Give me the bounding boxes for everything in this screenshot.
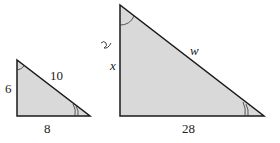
small-vertical-label: 6 <box>5 81 12 96</box>
large-triangle <box>120 5 264 116</box>
large-vertical-label: x <box>109 58 116 73</box>
large-base-label: 28 <box>182 121 195 136</box>
large-hypotenuse-label: w <box>190 43 199 58</box>
similar-triangles-diagram: 6 10 8 x w 28 <box>0 0 280 143</box>
handwritten-mark <box>101 42 111 49</box>
small-hypotenuse-label: 10 <box>50 68 63 83</box>
small-base-label: 8 <box>44 121 51 136</box>
